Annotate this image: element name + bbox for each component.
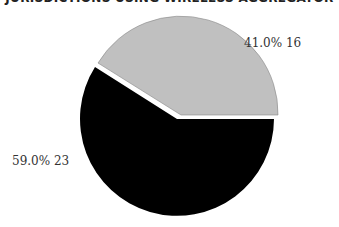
slice-label-gray: 41.0% 16 (244, 36, 301, 50)
pie-chart (0, 0, 339, 227)
slice-label-black: 59.0% 23 (12, 154, 69, 168)
